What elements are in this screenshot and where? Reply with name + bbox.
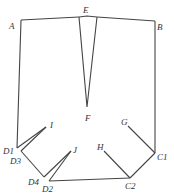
h-c2-line (104, 151, 130, 178)
left-edge (17, 20, 21, 148)
top-edge-mid (79, 16, 97, 17)
label-e: E (82, 5, 89, 15)
label-b: B (157, 22, 163, 32)
d3-d4-line (21, 151, 44, 177)
label-g: G (121, 117, 128, 127)
pattern-diagram: A E B F I G H J C1 C2 D1 D3 D4 D2 (0, 0, 174, 194)
label-c1: C1 (157, 152, 168, 162)
label-i: I (49, 120, 54, 130)
label-h: H (96, 142, 104, 152)
label-j: J (73, 145, 78, 155)
label-d3: D3 (9, 156, 21, 166)
d4-j-line (44, 151, 71, 177)
d2-j-line (49, 151, 71, 181)
c2-c1-line (130, 153, 155, 178)
dart (79, 17, 97, 107)
d3-i-line (21, 127, 46, 151)
label-d2: D2 (41, 184, 53, 194)
top-edge-left (21, 17, 79, 20)
label-f: F (84, 113, 91, 123)
d1-i-line (17, 127, 46, 148)
label-d4: D4 (27, 177, 39, 187)
d2-c2-line (49, 178, 130, 181)
top-edge-right (97, 17, 155, 21)
label-d1: D1 (2, 146, 14, 156)
label-a: A (8, 21, 15, 31)
g-c1-line (128, 126, 155, 153)
label-c2: C2 (125, 181, 136, 191)
